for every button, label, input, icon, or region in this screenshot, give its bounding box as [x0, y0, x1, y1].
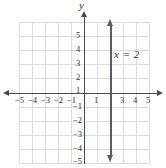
- y-tick-label--3: −3: [73, 130, 82, 139]
- y-tick-label--1: −1: [73, 102, 82, 111]
- y-tick-label-2: 2: [76, 73, 80, 82]
- x-tick-label--3: −3: [40, 96, 51, 105]
- y-tick-label-4: 4: [76, 45, 80, 54]
- x-tick-label--5: −5: [14, 96, 25, 105]
- y-tick-label-1: 1: [76, 86, 80, 95]
- x-axis-left-arrow-icon: [3, 90, 9, 96]
- grid-layer: [0, 0, 166, 168]
- x-tick-label-4: 4: [133, 96, 137, 105]
- x-axis: [6, 93, 160, 94]
- y-tick-label-3: 3: [76, 59, 80, 68]
- equation-annotation: x = 2: [114, 48, 140, 60]
- x-tick-label-3: 3: [120, 96, 124, 105]
- y-tick-label--2: −2: [73, 116, 82, 125]
- x-tick-label-5: 5: [146, 96, 150, 105]
- y-axis-label: y: [79, 0, 84, 11]
- x-axis-right-arrow-icon: [157, 90, 163, 96]
- y-tick-label-5: 5: [76, 31, 80, 40]
- y-axis: [84, 14, 85, 164]
- x-tick-label--2: −2: [53, 96, 64, 105]
- plot-line-down-arrow-icon: [107, 155, 113, 162]
- y-tick-label--5: −5: [73, 157, 82, 166]
- x-tick-label--4: −4: [27, 96, 38, 105]
- coordinate-graph: y x = 2 −5 −4 −3 −2 −1 1 3 4 5 5 4 3 2 1…: [0, 0, 166, 168]
- x-tick-label-1: 1: [94, 96, 98, 105]
- y-tick-label--4: −4: [73, 144, 82, 153]
- plot-line-up-arrow-icon: [107, 19, 113, 26]
- plot-line-x-equals-2: [110, 25, 112, 157]
- y-axis-up-arrow-icon: [81, 11, 87, 17]
